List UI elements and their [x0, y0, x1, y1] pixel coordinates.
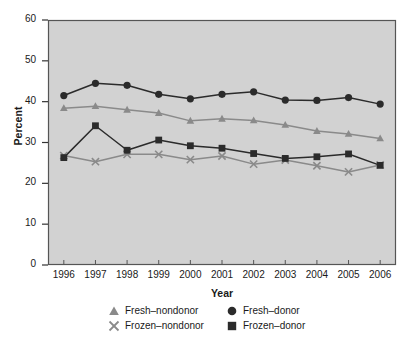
data-point-marker-square — [187, 142, 194, 149]
data-point-marker-circle — [218, 91, 225, 98]
x-axis-title: Year — [48, 287, 396, 299]
legend-item[interactable]: Frozen–donor — [226, 320, 344, 332]
legend-label: Fresh–nondonor — [125, 305, 198, 317]
plot-area-background — [48, 20, 396, 265]
data-point-marker-circle — [250, 88, 257, 95]
y-tick-label: 20 — [12, 176, 36, 187]
data-point-marker-square — [155, 137, 162, 144]
y-tick-label: 30 — [12, 136, 36, 147]
legend-marker-square-icon — [226, 320, 238, 332]
legend-item[interactable]: Fresh–donor — [226, 305, 344, 317]
data-point-marker-circle — [187, 95, 194, 102]
legend-marker-x-icon — [108, 320, 120, 332]
data-point-marker-circle — [92, 80, 99, 87]
legend-item[interactable]: Frozen–nondonor — [108, 320, 226, 332]
data-point-marker-square — [92, 122, 99, 129]
x-tick-label: 2002 — [237, 269, 271, 280]
data-point-marker-circle — [282, 96, 289, 103]
data-point-marker-circle — [313, 97, 320, 104]
legend-marker-circle-icon — [226, 305, 238, 317]
y-tick-label: 40 — [12, 95, 36, 106]
data-point-marker-square — [250, 150, 257, 157]
legend-label: Fresh–donor — [243, 305, 300, 317]
data-point-marker-circle — [377, 101, 384, 108]
data-point-marker-circle — [123, 82, 130, 89]
x-tick-label: 2001 — [205, 269, 239, 280]
x-tick-label: 2004 — [300, 269, 334, 280]
data-point-marker-square — [377, 162, 384, 169]
legend-label: Frozen–nondonor — [125, 320, 204, 332]
x-tick-label: 1996 — [47, 269, 81, 280]
x-tick-label: 1997 — [78, 269, 112, 280]
data-point-marker-circle — [345, 94, 352, 101]
data-point-marker-square — [282, 155, 289, 162]
y-tick-label: 60 — [12, 13, 36, 24]
line-chart-figure: Percent Year 0102030405060 1996199719981… — [0, 0, 415, 347]
data-point-marker-square — [345, 151, 352, 158]
y-tick-label: 50 — [12, 54, 36, 65]
data-point-marker-circle — [155, 91, 162, 98]
data-point-marker-square — [219, 145, 226, 152]
data-point-marker-square — [124, 147, 131, 154]
data-point-marker-circle — [60, 92, 67, 99]
y-tick-label: 0 — [12, 258, 36, 269]
y-tick-label: 10 — [12, 217, 36, 228]
data-point-marker-square — [314, 153, 321, 160]
x-tick-label: 1999 — [142, 269, 176, 280]
chart-legend: Fresh–nondonorFresh–donorFrozen–nondonor… — [108, 305, 358, 332]
x-tick-label: 1998 — [110, 269, 144, 280]
data-point-marker-square — [60, 154, 67, 161]
x-tick-label: 2000 — [173, 269, 207, 280]
x-tick-label: 2003 — [268, 269, 302, 280]
legend-item[interactable]: Fresh–nondonor — [108, 305, 226, 317]
x-tick-label: 2005 — [332, 269, 366, 280]
legend-marker-triangle-icon — [108, 305, 120, 317]
x-tick-label: 2006 — [363, 269, 397, 280]
legend-label: Frozen–donor — [243, 320, 305, 332]
